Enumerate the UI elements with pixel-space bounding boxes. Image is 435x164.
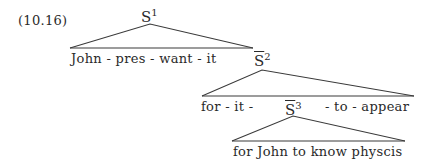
s2-left-yield: for - it -	[201, 100, 253, 113]
s3-yield: for John to know physcis	[233, 145, 402, 158]
s2-triangle	[202, 70, 414, 96]
node-s1: S1	[141, 10, 158, 25]
node-s2: S2	[254, 54, 271, 69]
s2-right-yield: - to - appear	[325, 100, 409, 113]
node-s3: S3	[285, 103, 302, 118]
s3-triangle	[232, 116, 405, 141]
example-number: (10.16)	[18, 14, 67, 27]
s1-yield: John - pres - want - it	[71, 52, 216, 65]
s1-triangle	[70, 24, 253, 48]
